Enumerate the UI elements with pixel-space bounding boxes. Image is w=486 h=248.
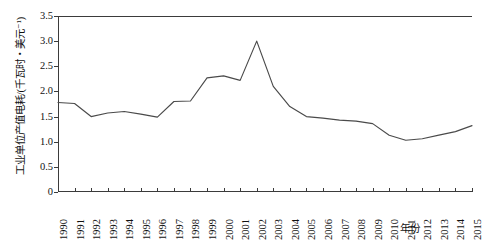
x-tick-label: 2015 <box>472 196 484 240</box>
y-tick-label: 2.5 <box>40 59 53 72</box>
x-tick-mark <box>472 188 473 192</box>
x-tick-mark <box>306 188 307 192</box>
x-tick-mark <box>224 188 225 192</box>
y-tick-mark <box>54 167 58 168</box>
x-tick-label: 2008 <box>356 196 368 240</box>
x-tick-mark <box>406 188 407 192</box>
x-tick-mark <box>373 188 374 192</box>
x-tick-label: 2007 <box>340 196 352 240</box>
x-tick-label: 2006 <box>323 196 335 240</box>
x-tick-label: 2012 <box>422 196 434 240</box>
x-tick-mark <box>422 188 423 192</box>
x-tick-label: 2001 <box>240 196 252 240</box>
x-tick-mark <box>108 188 109 192</box>
x-tick-mark <box>174 188 175 192</box>
x-tick-label: 2004 <box>290 196 302 240</box>
x-tick-mark <box>91 188 92 192</box>
x-tick-label: 1997 <box>174 196 186 240</box>
x-tick-mark <box>323 188 324 192</box>
x-tick-mark <box>58 188 59 192</box>
y-tick-label: 3.0 <box>40 34 53 47</box>
x-tick-mark <box>455 188 456 192</box>
x-tick-mark <box>240 188 241 192</box>
x-tick-mark <box>124 188 125 192</box>
x-tick-mark <box>190 188 191 192</box>
x-tick-mark <box>207 188 208 192</box>
x-tick-label: 2000 <box>224 196 236 240</box>
y-tick-mark <box>54 41 58 42</box>
y-tick-mark <box>54 142 58 143</box>
x-tick-label: 1991 <box>75 196 87 240</box>
y-tick-label: 1.0 <box>40 135 53 148</box>
x-tick-label: 1995 <box>141 196 153 240</box>
x-tick-mark <box>290 188 291 192</box>
x-tick-label: 1993 <box>108 196 120 240</box>
x-axis-title: 年份 <box>400 222 420 236</box>
y-tick-mark <box>54 16 58 17</box>
x-tick-mark <box>340 188 341 192</box>
x-tick-label: 2009 <box>373 196 385 240</box>
y-tick-mark <box>54 192 58 193</box>
x-tick-label: 2005 <box>306 196 318 240</box>
x-tick-label: 2013 <box>439 196 451 240</box>
x-tick-label: 1996 <box>157 196 169 240</box>
y-tick-label: 3.5 <box>40 9 53 22</box>
x-tick-label: 1990 <box>58 196 70 240</box>
y-tick-label: 0.5 <box>40 160 53 173</box>
data-series-line <box>58 16 472 192</box>
x-tick-label: 1998 <box>190 196 202 240</box>
x-tick-label: 2014 <box>455 196 467 240</box>
x-tick-label: 2003 <box>273 196 285 240</box>
x-tick-mark <box>273 188 274 192</box>
y-tick-label: 0 <box>48 185 53 198</box>
x-tick-label: 2002 <box>257 196 269 240</box>
x-tick-mark <box>141 188 142 192</box>
x-tick-mark <box>389 188 390 192</box>
x-tick-label: 1999 <box>207 196 219 240</box>
y-tick-mark <box>54 91 58 92</box>
chart-figure: 工业单位产值电耗/(千瓦时・美元⁻¹) 00.51.01.52.02.53.03… <box>0 0 486 248</box>
x-tick-mark <box>157 188 158 192</box>
y-tick-mark <box>54 117 58 118</box>
x-tick-mark <box>356 188 357 192</box>
y-axis-title: 工业单位产值电耗/(千瓦时・美元⁻¹) <box>14 0 28 196</box>
x-tick-mark <box>75 188 76 192</box>
y-tick-label: 2.0 <box>40 84 53 97</box>
x-tick-mark <box>257 188 258 192</box>
x-tick-label: 1994 <box>124 196 136 240</box>
x-tick-label: 1992 <box>91 196 103 240</box>
y-tick-mark <box>54 66 58 67</box>
y-tick-label: 1.5 <box>40 110 53 123</box>
x-tick-mark <box>439 188 440 192</box>
plot-area: 00.51.01.52.02.53.03.5 19901991199219931… <box>58 16 472 192</box>
